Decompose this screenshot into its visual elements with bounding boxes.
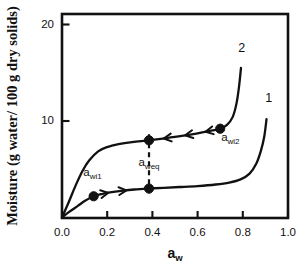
x-tick-label-0.0: 0.0 xyxy=(54,226,70,238)
y-tick-label-20: 20 xyxy=(41,18,54,30)
marker-a_wi1 xyxy=(89,192,98,201)
figure-container: 0.00.20.40.60.81.0 1020 aw Moisture (g w… xyxy=(0,0,308,270)
x-tick-label-1.0: 1.0 xyxy=(280,226,296,238)
x-tick-label-0.4: 0.4 xyxy=(144,226,161,238)
annotation-label-a_wi1: awi1 xyxy=(83,166,102,181)
x-tick-label-0.8: 0.8 xyxy=(235,226,251,238)
x-axis-tick-labels: 0.00.20.40.60.81.0 xyxy=(54,226,296,238)
y-axis-title: Moisture (g water/ 100 g dry solids) xyxy=(4,6,21,226)
x-tick-label-0.2: 0.2 xyxy=(99,226,115,238)
y-axis-tick-labels: 1020 xyxy=(41,18,54,127)
marker-a_weq-upper xyxy=(144,136,153,145)
x-axis-title: aw xyxy=(167,245,183,263)
sorption-isotherm-chart: 0.00.20.40.60.81.0 1020 aw Moisture (g w… xyxy=(0,0,308,270)
y-tick-label-10: 10 xyxy=(41,114,54,126)
curve-1 xyxy=(62,119,267,217)
svg-text:aw: aw xyxy=(167,245,183,263)
annotation-label-a_wi2: awi2 xyxy=(221,131,240,146)
curve-label-2: 2 xyxy=(238,41,245,55)
svg-text:Moisture (g water/ 100 g dry s: Moisture (g water/ 100 g dry solids) xyxy=(4,6,21,226)
curve-id-labels: 21 xyxy=(238,41,272,105)
annotation-label-a_weq: aweq xyxy=(138,156,159,171)
marker-a_weq-lower xyxy=(144,184,153,193)
curve-label-1: 1 xyxy=(265,91,272,105)
x-tick-label-0.6: 0.6 xyxy=(190,226,206,238)
